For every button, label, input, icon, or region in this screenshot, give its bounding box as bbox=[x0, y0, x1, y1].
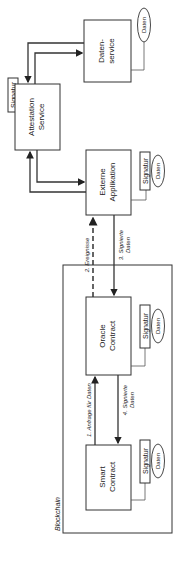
arrow-attestation-to-datenservice bbox=[35, 53, 82, 84]
svg-text:Daten-: Daten- bbox=[97, 39, 106, 63]
svg-text:Oracle: Oracle bbox=[98, 324, 107, 348]
attestation-label-2: Service bbox=[37, 103, 46, 130]
svg-text:Service: Service bbox=[37, 103, 46, 130]
daten-label-oracle: Daten bbox=[155, 318, 161, 334]
architecture-diagram: Blockchain Daten- service Daten Signatur… bbox=[0, 0, 175, 561]
externe-label-1: Externe bbox=[98, 168, 107, 196]
datenservice-label-2: service bbox=[107, 38, 116, 64]
svg-text:Externe: Externe bbox=[98, 168, 107, 196]
edge-label-4b: Daten bbox=[129, 391, 135, 408]
edge-label-1: 1. Anfrage für Daten bbox=[86, 382, 92, 436]
oracle-label-2: Contract bbox=[108, 320, 117, 351]
edge-label-3b: Daten bbox=[125, 236, 131, 253]
externe-label-2: Applikation bbox=[108, 162, 117, 201]
svg-text:Contract: Contract bbox=[108, 320, 117, 351]
svg-text:Daten: Daten bbox=[129, 391, 135, 408]
daten-label-datenservice: Daten bbox=[141, 17, 147, 33]
blockchain-label: Blockchain bbox=[54, 497, 61, 531]
svg-text:Daten: Daten bbox=[125, 236, 131, 253]
daten-label-externe: Daten bbox=[155, 163, 161, 179]
daten-label-smart: Daten bbox=[155, 453, 161, 469]
svg-text:3. Signierte: 3. Signierte bbox=[118, 229, 124, 260]
smart-label-2: Contract bbox=[108, 461, 117, 492]
svg-text:service: service bbox=[107, 38, 116, 64]
edge-label-2: 2. Ereignisse bbox=[84, 237, 90, 273]
svg-text:Attestation: Attestation bbox=[27, 98, 36, 136]
oracle-label-1: Oracle bbox=[98, 324, 107, 348]
svg-text:4. Signierte: 4. Signierte bbox=[122, 384, 128, 415]
attestation-label-1: Attestation bbox=[27, 98, 36, 136]
datenservice-label-1: Daten- bbox=[97, 39, 106, 63]
svg-text:Contract: Contract bbox=[108, 461, 117, 492]
svg-text:Smart: Smart bbox=[98, 466, 107, 488]
arrow-externe-to-attestation bbox=[30, 152, 86, 192]
edge-label-3a: 3. Signierte bbox=[118, 229, 124, 260]
svg-text:Applikation: Applikation bbox=[108, 162, 117, 201]
smart-label-1: Smart bbox=[98, 466, 107, 488]
signatur-label-smart: Signatur bbox=[142, 447, 150, 474]
arrow-attestation-to-externe bbox=[37, 150, 84, 182]
signatur-label-externe: Signatur bbox=[142, 157, 150, 184]
edge-label-4a: 4. Signierte bbox=[122, 384, 128, 415]
signatur-label-oracle: Signatur bbox=[142, 312, 150, 339]
arrow-datenservice-to-attestation bbox=[28, 43, 84, 82]
